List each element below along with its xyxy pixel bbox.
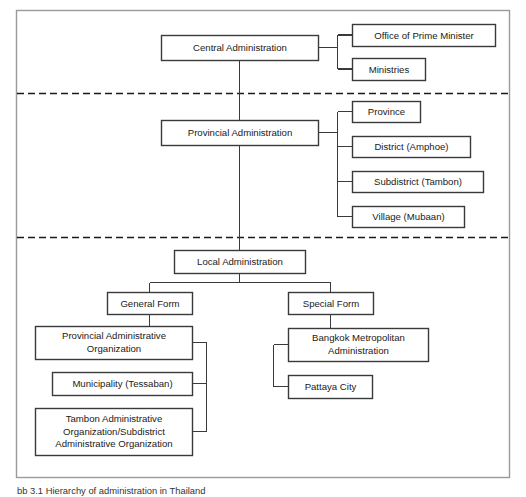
node-label-local-administration: Local Administration [197, 256, 283, 267]
node-label-ministries: Ministries [369, 64, 410, 75]
node-label-bma-line1: Bangkok Metropolitan [312, 332, 405, 343]
node-label-tao-line1: Tambon Administrative [66, 413, 163, 424]
node-ministries[interactable]: Ministries [353, 59, 426, 81]
node-tambon-administrative-organization[interactable]: Tambon Administrative Organization/Subdi… [36, 409, 193, 456]
node-special-form[interactable]: Special Form [289, 293, 374, 315]
figure-frame [17, 11, 510, 478]
node-label-provincial-administration: Provincial Administration [188, 127, 293, 138]
node-pattaya-city[interactable]: Pattaya City [289, 376, 373, 399]
node-label-office-of-prime-minister: Office of Prime Minister [374, 30, 474, 41]
node-label-pattaya-city: Pattaya City [305, 381, 357, 392]
node-label-pao-line1: Provincial Administrative [62, 330, 166, 341]
node-provincial-administration[interactable]: Provincial Administration [162, 121, 319, 146]
node-label-tao-line3: Administrative Organization [55, 438, 172, 449]
node-label-subdistrict-tambon: Subdistrict (Tambon) [374, 176, 462, 187]
node-central-administration[interactable]: Central Administration [162, 36, 319, 61]
node-general-form[interactable]: General Form [108, 293, 193, 315]
node-label-bma-line2: Administration [328, 345, 389, 356]
node-municipality-tessaban[interactable]: Municipality (Tessaban) [53, 373, 193, 396]
node-label-province: Province [368, 106, 405, 117]
node-village-mubaan[interactable]: Village (Mubaan) [353, 207, 465, 228]
node-label-municipality-tessaban: Municipality (Tessaban) [72, 378, 172, 389]
node-subdistrict-tambon[interactable]: Subdistrict (Tambon) [353, 172, 484, 193]
node-label-special-form: Special Form [303, 298, 360, 309]
node-label-general-form: General Form [120, 298, 179, 309]
node-label-village-mubaan: Village (Mubaan) [372, 211, 444, 222]
node-label-pao-line2: Organization [87, 343, 141, 354]
node-office-of-prime-minister[interactable]: Office of Prime Minister [353, 25, 496, 47]
node-label-district-amphoe: District (Amphoe) [374, 141, 448, 152]
node-province[interactable]: Province [353, 102, 421, 123]
node-label-central-administration: Central Administration [193, 42, 287, 53]
node-label-tao-line2: Organization/Subdistrict [63, 426, 165, 437]
administration-hierarchy-figure: Central Administration Office of Prime M… [0, 0, 526, 497]
node-bangkok-metropolitan-administration[interactable]: Bangkok Metropolitan Administration [289, 329, 429, 362]
node-district-amphoe[interactable]: District (Amphoe) [353, 137, 471, 158]
node-local-administration[interactable]: Local Administration [175, 251, 306, 274]
node-provincial-administrative-organization[interactable]: Provincial Administrative Organization [36, 327, 193, 360]
figure-caption: bb 3.1 Hierarchy of administration in Th… [17, 485, 205, 496]
